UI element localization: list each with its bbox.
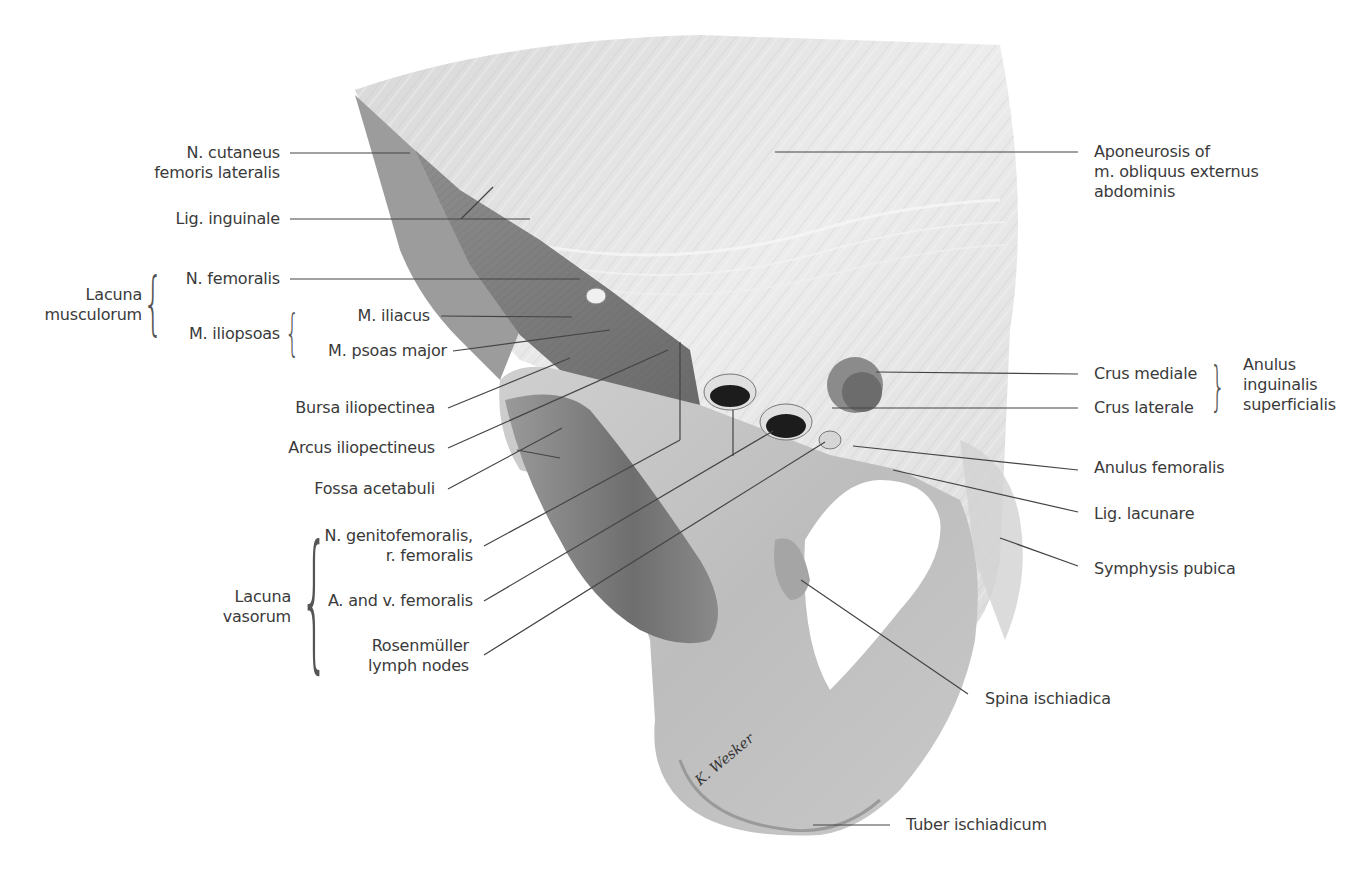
label-fossa-acetabuli: Fossa acetabuli: [314, 479, 435, 499]
label-aponeurosis-obliquus-externus: Aponeurosis of m. obliquus externus abdo…: [1094, 142, 1259, 202]
label-m-iliacus: M. iliacus: [358, 306, 430, 326]
label-symphysis-pubica: Symphysis pubica: [1094, 559, 1235, 579]
label-bursa-iliopectinea: Bursa iliopectinea: [295, 398, 435, 418]
label-arcus-iliopectineus: Arcus iliopectineus: [288, 438, 435, 458]
label-anulus-inguinalis-superficialis: Anulus inguinalis superficialis: [1243, 355, 1336, 415]
label-crus-laterale: Crus laterale: [1094, 398, 1194, 418]
label-n-femoralis: N. femoralis: [186, 269, 280, 289]
label-lig-inguinale: Lig. inguinale: [176, 209, 280, 229]
label-lig-lacunare: Lig. lacunare: [1094, 504, 1194, 524]
label-m-psoas-major: M. psoas major: [328, 341, 447, 361]
n-femoralis-shape: [586, 288, 606, 304]
illustration: K. Wesker: [0, 0, 1372, 870]
label-spina-ischiadica: Spina ischiadica: [985, 689, 1111, 709]
label-a-v-femoralis: A. and v. femoralis: [328, 591, 473, 611]
brace-m-iliopsoas: {: [285, 300, 299, 366]
label-n-genitofemoralis: N. genitofemoralis, r. femoralis: [324, 526, 473, 566]
brace-lacuna-musculorum: {: [143, 258, 163, 348]
brace-anulus-inguinalis: }: [1210, 352, 1225, 422]
label-lacuna-vasorum: Lacuna vasorum: [223, 587, 291, 627]
label-anulus-femoralis: Anulus femoralis: [1094, 458, 1225, 478]
label-crus-mediale: Crus mediale: [1094, 364, 1197, 384]
label-n-cutaneus-femoris-lateralis: N. cutaneus femoris lateralis: [154, 143, 280, 183]
anatomy-figure: K. Wesker: [0, 0, 1372, 870]
label-rosenmuller-lymph-nodes: Rosenmüller lymph nodes: [368, 636, 469, 676]
label-tuber-ischiadicum: Tuber ischiadicum: [906, 815, 1047, 835]
label-m-iliopsoas: M. iliopsoas: [189, 324, 280, 344]
label-lacuna-musculorum: Lacuna musculorum: [44, 285, 142, 325]
